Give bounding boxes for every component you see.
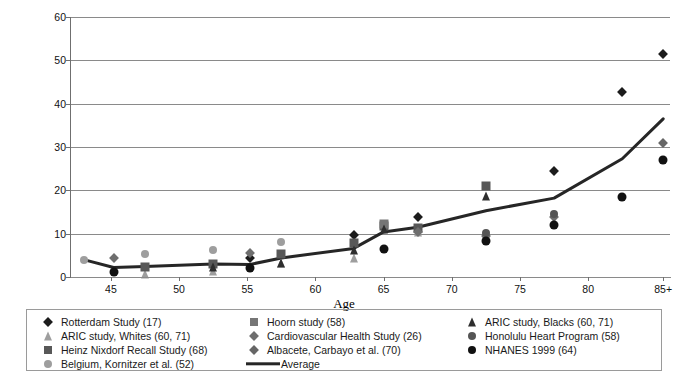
data-point <box>482 192 490 201</box>
legend-item[interactable]: Cardiovascular Health Study (26) <box>245 329 463 343</box>
x-tick-mark <box>247 277 248 281</box>
legend-marker-swatch <box>249 331 259 341</box>
x-tick-mark <box>179 277 180 281</box>
x-tick-mark <box>588 277 589 281</box>
legend-diamond-icon <box>245 343 263 356</box>
legend-marker-swatch <box>468 332 476 340</box>
data-point <box>550 210 558 218</box>
plot-area <box>70 17 670 277</box>
legend-square-icon <box>39 343 57 356</box>
x-tick-mark <box>384 277 385 281</box>
y-tick-label: 30 <box>40 142 66 152</box>
legend-label: Belgium, Kornitzer et al. (52) <box>61 358 194 370</box>
legend-circle-icon <box>39 357 57 370</box>
x-tick-mark <box>315 277 316 281</box>
legend-label: Honolulu Heart Program (58) <box>485 330 620 342</box>
y-tick-label: 0 <box>40 272 66 282</box>
legend-label: NHANES 1999 (64) <box>485 344 577 356</box>
legend-marker-swatch <box>468 346 476 354</box>
legend-marker-swatch <box>468 317 476 326</box>
legend-column: Hoorn study (58)Cardiovascular Health St… <box>245 310 463 370</box>
data-point <box>277 238 285 246</box>
legend-item[interactable]: Average <box>245 357 463 371</box>
legend-label: Average <box>281 358 320 370</box>
x-tick-label: 55 <box>241 283 253 295</box>
chart-figure: 0102030405060 455055606570758085+ Rates … <box>0 0 688 380</box>
legend-marker-swatch <box>43 317 53 327</box>
y-tick-label: 60 <box>40 12 66 22</box>
legend-label: ARIC study, Whites (60, 71) <box>61 330 190 342</box>
data-point <box>379 244 388 253</box>
data-point <box>277 250 286 259</box>
data-point <box>109 267 118 276</box>
legend-item[interactable]: ARIC study, Blacks (60, 71) <box>463 315 663 329</box>
data-point <box>141 263 150 272</box>
y-tick-mark <box>66 190 71 191</box>
x-tick-label: 85+ <box>654 283 672 295</box>
legend-triangle-icon <box>463 315 481 328</box>
x-tick-label: 80 <box>582 283 594 295</box>
data-point <box>277 258 285 267</box>
legend-line-swatch <box>246 362 280 365</box>
legend-square-icon <box>245 315 263 328</box>
average-line <box>84 119 664 268</box>
legend-item[interactable]: Belgium, Kornitzer et al. (52) <box>39 357 245 371</box>
data-point <box>209 246 217 254</box>
x-tick-label: 45 <box>105 283 117 295</box>
legend-label: Hoorn study (58) <box>267 316 345 328</box>
x-tick-mark <box>663 277 664 281</box>
y-tick-label: 20 <box>40 185 66 195</box>
legend-item[interactable]: Heinz Nixdorf Recall Study (68) <box>39 343 245 357</box>
legend-column: Rotterdam Study (17)ARIC study, Whites (… <box>27 310 245 370</box>
y-tick-label: 50 <box>40 55 66 65</box>
x-tick-label: 75 <box>514 283 526 295</box>
y-tick-mark <box>66 147 71 148</box>
legend-item[interactable]: Rotterdam Study (17) <box>39 315 245 329</box>
legend-item[interactable]: Hoorn study (58) <box>245 315 463 329</box>
legend-label: Rotterdam Study (17) <box>61 316 161 328</box>
x-tick-mark <box>520 277 521 281</box>
x-tick-mark <box>452 277 453 281</box>
legend-label: ARIC study, Blacks (60, 71) <box>485 316 613 328</box>
data-point <box>659 156 668 165</box>
data-point <box>618 193 627 202</box>
y-tick-mark <box>66 234 71 235</box>
legend-line-icon <box>245 357 281 370</box>
data-point <box>350 254 358 263</box>
legend-marker-swatch <box>44 331 52 340</box>
legend-item[interactable]: ARIC study, Whites (60, 71) <box>39 329 245 343</box>
x-tick-label: 65 <box>378 283 390 295</box>
legend-circle-icon <box>463 343 481 356</box>
data-point <box>80 256 88 264</box>
legend-diamond-icon <box>39 315 57 328</box>
legend-marker-swatch <box>250 318 258 326</box>
legend-diamond-icon <box>245 329 263 342</box>
data-point <box>350 245 358 254</box>
data-point <box>481 237 490 246</box>
legend-column: ARIC study, Blacks (60, 71)Honolulu Hear… <box>463 310 663 370</box>
data-point <box>141 250 149 258</box>
legend: Rotterdam Study (17)ARIC study, Whites (… <box>26 309 662 371</box>
y-tick-label: 10 <box>40 229 66 239</box>
data-point <box>246 263 255 272</box>
y-tick-mark <box>66 60 71 61</box>
data-point <box>481 182 490 191</box>
legend-item[interactable]: Albacete, Carbayo et al. (70) <box>245 343 463 357</box>
x-axis-line <box>70 277 671 278</box>
x-tick-label: 60 <box>310 283 322 295</box>
data-point <box>550 221 559 230</box>
y-tick-mark <box>66 17 71 18</box>
legend-marker-swatch <box>249 345 259 355</box>
legend-item[interactable]: NHANES 1999 (64) <box>463 343 663 357</box>
legend-label: Heinz Nixdorf Recall Study (68) <box>61 344 207 356</box>
y-tick-mark <box>66 277 71 278</box>
legend-label: Cardiovascular Health Study (26) <box>267 330 422 342</box>
legend-circle-icon <box>463 329 481 342</box>
legend-item[interactable]: Honolulu Heart Program (58) <box>463 329 663 343</box>
y-tick-mark <box>66 104 71 105</box>
y-tick-label: 40 <box>40 99 66 109</box>
x-tick-mark <box>111 277 112 281</box>
legend-marker-swatch <box>44 346 52 354</box>
data-point <box>209 262 217 271</box>
legend-label: Albacete, Carbayo et al. (70) <box>267 344 401 356</box>
